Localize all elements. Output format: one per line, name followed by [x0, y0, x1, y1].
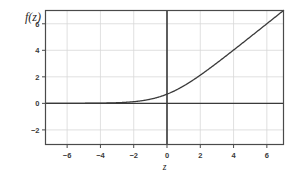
- y-axis-label: f(z): [25, 10, 41, 24]
- x-axis-label: z: [162, 162, 167, 172]
- x-tick-label: 2: [198, 151, 202, 160]
- y-tick-label: 2: [35, 73, 39, 82]
- plot-background: [46, 11, 284, 145]
- x-tick-label: 0: [165, 151, 169, 160]
- x-tick-labels: −6−4−20246: [63, 151, 269, 160]
- y-tick-label: 0: [35, 99, 39, 108]
- x-tick-label: −6: [63, 151, 72, 160]
- y-tick-labels: −20246: [31, 20, 40, 135]
- softplus-plot: −6−4−20246 −20246 f(z) z: [0, 0, 295, 178]
- y-tick-label: −2: [31, 126, 40, 135]
- x-tick-label: −2: [129, 151, 138, 160]
- x-tick-label: 6: [265, 151, 269, 160]
- x-tick-label: 4: [231, 151, 236, 160]
- y-tick-label: 4: [35, 46, 40, 55]
- chart-figure: −6−4−20246 −20246 f(z) z: [0, 0, 295, 178]
- x-tick-label: −4: [96, 151, 105, 160]
